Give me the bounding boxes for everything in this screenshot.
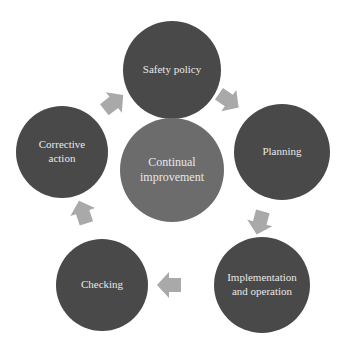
node-implementation-and-operation: Implementation and operation bbox=[214, 237, 310, 333]
node-label-line2: and operation bbox=[227, 285, 297, 299]
arrow-corrective-to-safety-icon bbox=[96, 85, 131, 120]
node-checking: Checking bbox=[56, 239, 148, 331]
node-label-line1: Corrective bbox=[39, 138, 85, 152]
node-planning: Planning bbox=[234, 104, 330, 200]
arrow-implementation-to-checking-icon bbox=[157, 272, 181, 298]
node-continual-improvement: Continual improvement bbox=[120, 118, 224, 222]
node-label-line1: Implementation bbox=[227, 271, 297, 285]
node-label: Safety policy bbox=[143, 63, 201, 77]
center-label-line2: improvement bbox=[140, 170, 204, 185]
node-label-line2: action bbox=[39, 152, 85, 166]
node-label: Planning bbox=[262, 145, 301, 159]
node-corrective-action: Corrective action bbox=[16, 106, 108, 198]
node-label: Checking bbox=[81, 278, 123, 292]
arrow-checking-to-corrective-icon bbox=[67, 197, 99, 228]
center-label-line1: Continual bbox=[140, 155, 204, 170]
node-safety-policy: Safety policy bbox=[123, 21, 221, 119]
arrow-planning-to-implementation-icon bbox=[244, 208, 275, 238]
